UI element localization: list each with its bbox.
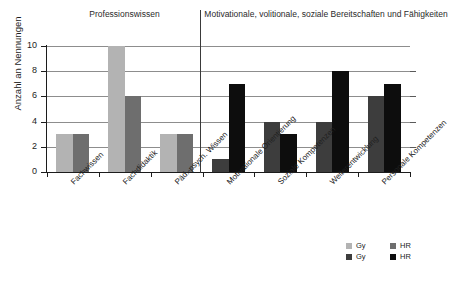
legend-item-gy-light: Gy: [346, 241, 390, 250]
category-tick: [410, 172, 411, 177]
y-axis-tick-label: 0: [11, 166, 37, 176]
category-tick: [358, 172, 359, 177]
right-tick-mark: [410, 122, 416, 123]
legend-item-hr-light: HR: [390, 241, 434, 250]
section-header-left: Professionswissen: [52, 9, 197, 20]
legend-row-2: Gy HR: [346, 251, 446, 262]
y-axis-tick-label: 4: [11, 116, 37, 126]
bar: [212, 159, 229, 172]
bar: [229, 84, 246, 172]
legend-swatch-icon: [346, 243, 352, 249]
bar: [160, 134, 177, 172]
right-tick-mark: [410, 96, 416, 97]
category-tick: [99, 172, 100, 177]
legend-label: Gy: [356, 252, 366, 261]
legend-swatch-icon: [346, 254, 352, 260]
legend-label: Gy: [356, 241, 366, 250]
legend-item-hr-dark: HR: [390, 252, 434, 261]
legend-row-1: Gy HR: [346, 240, 446, 251]
y-axis-tick-label: 6: [11, 90, 37, 100]
legend-label: HR: [400, 252, 411, 261]
category-tick: [203, 172, 204, 177]
chart-figure: Professionswissen Motivationale, volitio…: [0, 0, 450, 287]
legend: Gy HR Gy HR: [346, 240, 446, 262]
right-tick-mark: [410, 71, 416, 72]
bar: [368, 96, 385, 172]
legend-swatch-icon: [390, 243, 396, 249]
category-tick: [254, 172, 255, 177]
bar: [384, 84, 401, 172]
bar: [56, 134, 73, 172]
y-axis-tick-label: 8: [11, 65, 37, 75]
section-header-right: Motivationale, volitionale, soziale Bere…: [204, 9, 448, 20]
y-axis-tick-label: 2: [11, 141, 37, 151]
category-tick: [47, 172, 48, 177]
bar: [332, 71, 349, 172]
bar: [108, 46, 125, 172]
legend-swatch-icon: [390, 254, 396, 260]
y-axis-tick-label: 10: [11, 40, 37, 50]
category-tick: [306, 172, 307, 177]
legend-label: HR: [400, 241, 411, 250]
x-axis-line: [46, 172, 411, 173]
legend-item-gy-dark: Gy: [346, 252, 390, 261]
category-tick: [151, 172, 152, 177]
